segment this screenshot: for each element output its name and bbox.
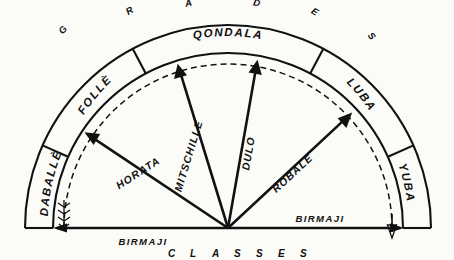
classes-letter-2: A [211, 248, 224, 259]
class-label-horata: HORATA [114, 154, 162, 191]
grades-letter-1: R [123, 3, 136, 17]
classes-letter-0: C [168, 248, 180, 259]
classes-letter-1: L [190, 248, 201, 259]
classes-letter-6: S [300, 248, 312, 259]
grade-labels: DABALLÈ FOLLÈ QONDALA LUBA YUBA [38, 26, 417, 216]
class-label-robale: ROBALE [270, 151, 315, 195]
grades-letter-2: A [183, 0, 195, 9]
class-ray-horata [93, 138, 229, 228]
grade-label-folle: FOLLÈ [75, 73, 114, 117]
diagram-canvas: DABALLÈ FOLLÈ QONDALA LUBA YUBA G R A D … [0, 0, 454, 260]
class-rays [85, 60, 353, 228]
classes-letter-3: S [234, 248, 246, 259]
classes-heading: C L A S S E S [168, 248, 312, 259]
grade-label-daballe: DABALLÈ [38, 148, 64, 216]
class-ray-horata-arrowhead [85, 132, 101, 145]
grade-label-qondala: QONDALA [192, 26, 264, 41]
grade-band [25, 25, 431, 228]
class-label-birmaji-left: BIRMAJI [119, 236, 168, 247]
class-ray-dulo-arrowhead [249, 60, 262, 75]
class-ray-mitschille-arrowhead [174, 64, 187, 79]
grades-letter-5: S [366, 30, 380, 44]
grades-letter-3: D [252, 0, 263, 9]
grade-divider-qondala-luba [310, 49, 323, 74]
grade-label-luba: LUBA [345, 76, 379, 114]
grades-letter-4: E [309, 5, 322, 19]
class-label-mitschille: MITSCHILLE [172, 119, 205, 193]
grade-divider-folle-qondala [133, 49, 146, 74]
classes-letter-4: S [256, 248, 268, 259]
dashed-arc [64, 64, 392, 228]
grades-letter-0: G [56, 22, 70, 36]
cycle-dashed-arc [58, 64, 397, 238]
class-label-dulo: DULO [239, 135, 257, 171]
class-label-birmaji-right: BIRMAJI [296, 213, 345, 224]
classes-letter-5: E [278, 248, 290, 259]
baseline-labels: BIRMAJI BIRMAJI [119, 213, 345, 247]
grade-divider-luba-yuba [388, 145, 414, 156]
gada-grade-diagram: DABALLÈ FOLLÈ QONDALA LUBA YUBA G R A D … [0, 0, 454, 260]
